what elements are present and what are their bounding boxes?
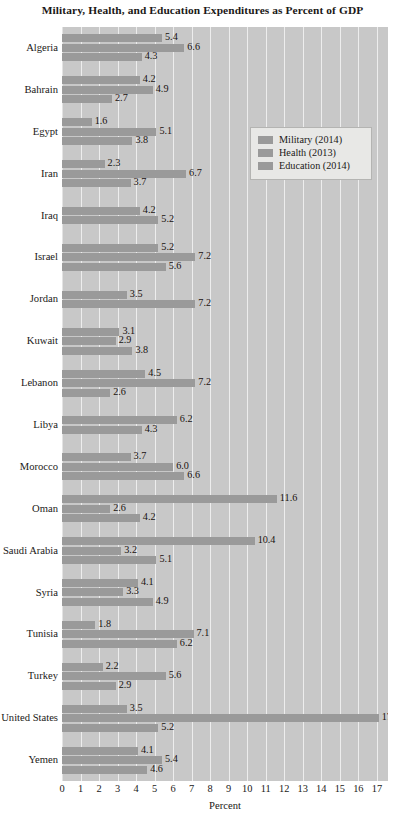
bar [62,505,110,513]
bar [62,95,112,103]
bar-value-label: 7.2 [198,298,211,308]
x-tick-label-3: 3 [115,783,120,795]
x-tick-label-8: 8 [208,783,213,795]
bar [62,598,153,606]
x-tick-label-0: 0 [59,783,64,795]
x-tick-label-1: 1 [78,783,83,795]
bar [62,389,110,397]
bar-group-turkey: 2.25.62.9 [62,655,388,697]
x-axis-title: Percent [62,800,388,811]
bar [62,705,127,713]
x-tick-label-15: 15 [335,783,345,795]
bar-group-tunisia: 1.87.16.2 [62,613,388,655]
x-axis-ticks: 01234567891011121314151617 [62,783,388,799]
bar [62,118,92,126]
bar-value-label: 2.6 [113,387,126,397]
category-label-oman: Oman [0,503,58,514]
bar-value-label: 11.6 [280,493,297,503]
bar [62,724,158,732]
legend-swatch-icon [258,149,273,157]
bar [62,370,145,378]
category-label-united-states: United States [0,712,58,723]
category-label-libya: Libya [0,419,58,430]
bar-value-label: 4.3 [145,51,158,61]
category-label-jordan: Jordan [0,293,58,304]
bar [62,216,158,224]
bar-group-iraq: 4.25.2 [62,195,388,237]
bar-value-label: 3.3 [126,586,139,596]
bar [62,747,138,755]
bar-group-yemen: 4.15.44.6 [62,739,388,781]
bar-value-label: 17.1 [382,712,388,722]
bar-value-label: 4.3 [145,424,158,434]
bar [62,537,255,545]
bar-value-label: 5.6 [169,261,182,271]
bar-value-label: 4.2 [143,512,156,522]
bar-value-label: 4.6 [150,764,163,774]
legend-item-health[interactable]: Health (2013) [258,147,364,159]
bar-group-oman: 11.62.64.2 [62,488,388,530]
bar-group-bahrain: 4.24.92.7 [62,69,388,111]
bar [62,160,105,168]
bar-value-label: 6.6 [187,470,200,480]
bar [62,379,195,387]
bar-value-label: 2.3 [108,158,121,168]
x-tick-label-11: 11 [261,783,271,795]
bar-value-label: 5.1 [159,126,172,136]
bar-group-jordan: 3.57.2 [62,278,388,320]
bar [62,514,140,522]
bar-value-label: 5.2 [161,722,174,732]
bar-value-label: 2.6 [113,503,126,513]
bar [62,347,132,355]
category-label-algeria: Algeria [0,42,58,53]
bar-value-label: 10.4 [258,535,276,545]
bar-value-label: 3.8 [135,345,148,355]
legend-swatch-icon [258,162,273,170]
bar [62,672,166,680]
category-label-turkey: Turkey [0,670,58,681]
bar [62,44,184,52]
bar-value-label: 4.1 [141,745,154,755]
bar-value-label: 3.8 [135,135,148,145]
bar [62,337,116,345]
x-tick-label-16: 16 [353,783,363,795]
bar [62,137,132,145]
bar-value-label: 2.7 [115,93,128,103]
bar [62,416,177,424]
bar-value-label: 4.2 [143,74,156,84]
bar-value-label: 5.6 [169,670,182,680]
bar-value-label: 5.4 [165,754,178,764]
bar-value-label: 4.9 [156,596,169,606]
bar-value-label: 4.1 [141,577,154,587]
category-label-yemen: Yemen [0,754,58,765]
category-label-kuwait: Kuwait [0,335,58,346]
legend-item-military[interactable]: Military (2014) [258,134,364,146]
category-label-morocco: Morocco [0,461,58,472]
bar [62,244,158,252]
category-label-israel: Israel [0,251,58,262]
bar-group-morocco: 3.76.06.6 [62,446,388,488]
x-tick-label-6: 6 [171,783,176,795]
bar-value-label: 2.9 [119,680,132,690]
category-label-egypt: Egypt [0,126,58,137]
category-label-tunisia: Tunisia [0,628,58,639]
category-label-bahrain: Bahrain [0,84,58,95]
bar-value-label: 3.5 [130,703,143,713]
legend-label: Education (2014) [279,160,350,172]
legend-label: Military (2014) [279,134,342,146]
bar [62,756,162,764]
x-tick-label-5: 5 [152,783,157,795]
bar-value-label: 7.2 [198,251,211,261]
bar [62,179,131,187]
bar [62,663,103,671]
bar-group-syria: 4.13.34.9 [62,572,388,614]
chart-legend: Military (2014)Health (2013)Education (2… [250,127,372,180]
bar-value-label: 3.7 [134,451,147,461]
category-label-syria: Syria [0,587,58,598]
bar [62,640,177,648]
bar-group-libya: 6.24.3 [62,404,388,446]
bar-value-label: 3.2 [124,545,137,555]
legend-item-education[interactable]: Education (2014) [258,160,364,172]
bar [62,621,95,629]
bar [62,588,123,596]
